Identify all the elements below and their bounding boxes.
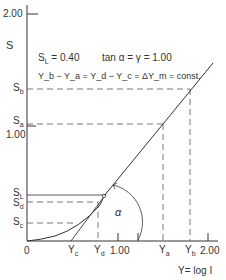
marker-yb: Yb <box>185 245 196 259</box>
marker-sb: Sb <box>13 83 24 97</box>
toe-curve <box>27 196 104 241</box>
marker-sc: Sc <box>13 217 23 231</box>
gamma-annotation: tan α = γ = 1.00 <box>102 53 172 63</box>
x-tick-label-0: 0 <box>24 246 30 256</box>
x-axis-label: Y= log I <box>178 266 212 276</box>
angle-label: α <box>115 207 121 217</box>
marker-yd: Yd <box>94 245 105 259</box>
marker-sa: Sa <box>13 116 24 130</box>
marker-sd: Sd <box>13 198 24 212</box>
sl-point <box>102 194 105 197</box>
y-tick-label-2: 2.00 <box>3 9 22 19</box>
marker-ya: Ya <box>159 245 170 259</box>
straight-line <box>104 63 213 196</box>
marker-yc: Yc <box>68 245 78 259</box>
characteristic-curve-diagram <box>0 0 226 280</box>
y-tick-label-1: 1.00 <box>6 130 25 140</box>
x-tick-label-2: 2.00 <box>200 246 219 256</box>
y-axis-label: S <box>6 40 13 50</box>
sl-annotation: SL = 0.40 <box>38 53 79 67</box>
equation-annotation: Y_b − Y_a = Y_d − Y_c = ΔY_m = const. <box>38 71 201 81</box>
tangent-line <box>71 194 106 241</box>
x-tick-label-1: 1.00 <box>110 246 129 256</box>
